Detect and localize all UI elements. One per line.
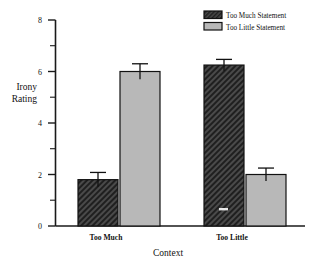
bar-too-much-statement-in-too-little[interactable] [204, 65, 244, 226]
chart-container: 8 6 4 2 0 Irony Rating Too Much Too Litt… [0, 0, 320, 266]
y-tick-label-8: 8 [38, 16, 42, 25]
x-axis-title: Context [153, 248, 183, 258]
legend-label-too-much-statement: Too Much Statement [226, 12, 286, 20]
y-tick-label-2: 2 [38, 171, 42, 180]
bar-too-little-statement-in-too-much[interactable] [120, 72, 160, 227]
y-axis-title-line2: Rating [12, 94, 38, 104]
x-category-label-too-little: Too Little [216, 233, 248, 242]
x-category-label-too-much: Too Much [90, 233, 124, 242]
legend-label-too-little-statement: Too Little Statement [226, 24, 285, 32]
legend-swatch-too-little-statement [204, 23, 222, 31]
bar-interior-mark [219, 208, 228, 210]
y-tick-label-4: 4 [38, 119, 42, 128]
y-tick-label-6: 6 [38, 68, 42, 77]
bar-too-little-statement-in-too-little[interactable] [246, 175, 286, 227]
y-tick-label-0: 0 [38, 222, 42, 231]
legend-swatch-too-much-statement [204, 11, 222, 19]
y-axis-title-line1: Irony [16, 82, 37, 92]
irony-rating-bar-chart: 8 6 4 2 0 Irony Rating Too Much Too Litt… [0, 0, 320, 266]
